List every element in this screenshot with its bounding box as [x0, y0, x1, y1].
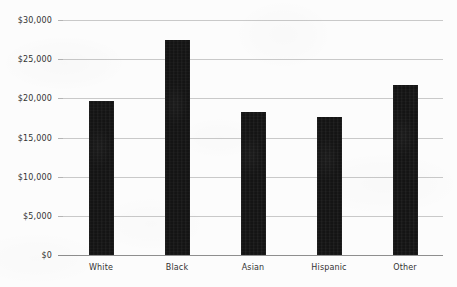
- x-tick-label: Black: [166, 263, 188, 272]
- y-tick-label: $5,000: [23, 211, 52, 220]
- gridline: [63, 59, 443, 60]
- gridline: [63, 20, 443, 21]
- y-tick-label: $30,000: [18, 16, 52, 25]
- y-tick-label: $15,000: [18, 133, 52, 142]
- bar-chart: $0$5,000$10,000$15,000$20,000$25,000$30,…: [0, 0, 457, 287]
- y-tick-mark: [58, 177, 63, 178]
- gridline: [63, 98, 443, 99]
- y-tick-mark: [58, 255, 63, 256]
- y-tick-mark: [58, 20, 63, 21]
- bar: [165, 40, 190, 255]
- x-tick-label: Asian: [242, 263, 265, 272]
- y-tick-mark: [58, 216, 63, 217]
- y-tick-label: $10,000: [18, 172, 52, 181]
- y-tick-mark: [58, 59, 63, 60]
- plot-area: [63, 20, 443, 255]
- x-tick-label: White: [89, 263, 113, 272]
- axis-baseline: [63, 255, 443, 256]
- bar: [89, 101, 114, 255]
- y-axis: $0$5,000$10,000$15,000$20,000$25,000$30,…: [0, 20, 52, 255]
- bar: [317, 117, 342, 255]
- x-tick-label: Hispanic: [311, 263, 346, 272]
- y-tick-label: $0: [42, 251, 52, 260]
- bar: [241, 112, 266, 255]
- y-tick-label: $25,000: [18, 55, 52, 64]
- y-tick-label: $20,000: [18, 94, 52, 103]
- y-tick-mark: [58, 138, 63, 139]
- y-tick-mark: [58, 98, 63, 99]
- bar: [393, 85, 418, 255]
- x-tick-label: Other: [393, 263, 416, 272]
